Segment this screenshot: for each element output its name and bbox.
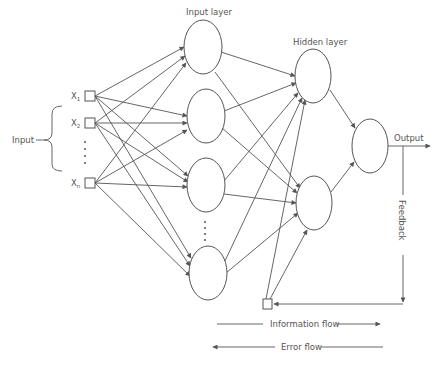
input-group-label: Input	[12, 135, 35, 145]
input-layer-node-2	[187, 89, 225, 143]
input-x2	[85, 118, 95, 128]
information-flow-label: Information flow	[270, 319, 339, 329]
feedback-label: Feedback	[397, 200, 407, 241]
hidden-edges	[215, 52, 307, 299]
output-node	[352, 119, 388, 173]
input-brace	[44, 106, 62, 171]
input-x1	[85, 91, 95, 101]
input-layer-node-1	[184, 20, 222, 74]
input-x1-label: X1	[71, 91, 80, 102]
input-group: Input	[12, 106, 62, 171]
flow-legend: Information flow Error flow	[213, 319, 383, 352]
hidden-layer-label: Hidden layer	[293, 37, 348, 47]
error-flow-label: Error flow	[281, 342, 322, 352]
input-layer: Input layer	[184, 7, 233, 300]
hidden-layer: Hidden layer	[293, 37, 348, 230]
input-xn	[85, 178, 95, 188]
feedback-loop: Feedback	[274, 146, 407, 304]
neural-network-diagram: Input	[0, 0, 446, 365]
input-layer-label: Input layer	[186, 7, 233, 17]
hidden-layer-node-1	[295, 49, 331, 103]
input-xn-label: Xn	[71, 178, 81, 189]
input-edges	[95, 47, 191, 276]
input-layer-node-3	[187, 158, 225, 212]
output-label: Output	[394, 133, 424, 143]
feedback-node	[263, 299, 272, 309]
hidden-layer-node-2	[296, 176, 332, 230]
input-x2-label: X2	[71, 118, 80, 129]
input-layer-node-4	[189, 246, 227, 300]
input-nodes: X1 X2 Xn	[71, 91, 95, 189]
